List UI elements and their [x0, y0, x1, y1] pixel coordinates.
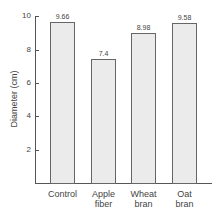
bar-apple-fiber	[91, 59, 116, 184]
bar-value-label: 9.58	[165, 14, 205, 21]
y-tick-label: 4	[17, 112, 31, 120]
y-tick	[35, 50, 39, 51]
y-tick-label: 6	[17, 79, 31, 87]
y-tick	[35, 83, 39, 84]
y-axis-title: Diameter (cm)	[9, 59, 19, 139]
y-tick	[35, 150, 39, 151]
y-axis	[35, 16, 36, 183]
y-tick-label: 2	[17, 146, 31, 154]
x-category-label: Wheatbran	[122, 189, 166, 209]
x-category-label: Applefiber	[82, 189, 126, 209]
y-tick-label: 8	[17, 46, 31, 54]
y-tick-label: 10	[17, 12, 31, 20]
x-category-label: Control	[41, 189, 85, 199]
bar-oat-bran	[172, 23, 197, 184]
bar-chart: Diameter (cm) 2 4 6 8 10 9.66Control7.4A…	[0, 0, 221, 219]
bar-value-label: 7.4	[84, 50, 124, 57]
y-tick	[35, 16, 39, 17]
y-tick	[35, 116, 39, 117]
bar-value-label: 9.66	[43, 13, 83, 20]
x-category-label: Oatbran	[163, 189, 207, 209]
bar-value-label: 8.98	[124, 24, 164, 31]
bar-control	[50, 22, 75, 184]
bar-wheat-bran	[131, 33, 156, 184]
